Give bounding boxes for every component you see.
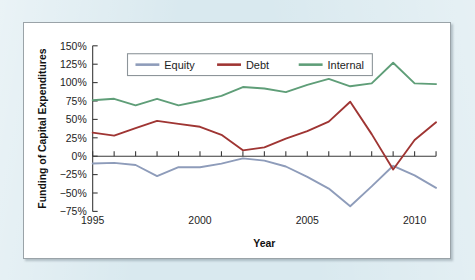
x-tick-label: 1995: [81, 215, 104, 226]
x-axis-ticks: 1995200020052010: [81, 151, 436, 226]
chart-legend: EquityDebtInternal: [128, 54, 373, 76]
y-tick-label: 25%: [66, 133, 87, 144]
y-tick-label: −25%: [60, 169, 87, 180]
y-tick-label: 100%: [60, 77, 87, 88]
y-tick-label: 125%: [60, 59, 87, 70]
x-axis-title: Year: [253, 238, 275, 249]
legend-label-internal: Internal: [328, 59, 364, 71]
x-tick-label: 2010: [403, 215, 426, 226]
series-line-debt: [93, 102, 436, 170]
series-line-equity: [93, 158, 436, 206]
chart-panel: −75%−50%−25%0%25%50%75%100%125%150% 1995…: [23, 22, 451, 259]
y-axis-ticks: −75%−50%−25%0%25%50%75%100%125%150%: [60, 41, 98, 218]
x-tick-label: 2005: [296, 215, 319, 226]
y-tick-label: −50%: [60, 188, 87, 199]
page-background: −75%−50%−25%0%25%50%75%100%125%150% 1995…: [0, 0, 475, 280]
legend-label-equity: Equity: [164, 59, 195, 71]
y-tick-label: 0%: [72, 151, 87, 162]
y-axis-title: Funding of Capital Expenditures: [37, 48, 48, 208]
series-lines: [93, 63, 436, 207]
line-chart: −75%−50%−25%0%25%50%75%100%125%150% 1995…: [24, 23, 450, 258]
x-tick-label: 2000: [188, 215, 211, 226]
y-tick-label: 150%: [60, 41, 87, 52]
y-tick-label: 50%: [66, 114, 87, 125]
y-tick-label: 75%: [66, 96, 87, 107]
legend-label-debt: Debt: [246, 59, 269, 71]
